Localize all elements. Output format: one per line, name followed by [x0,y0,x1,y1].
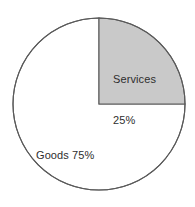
pie-chart-svg [0,0,195,207]
pie-chart: Services 25% Goods 75% [0,0,195,207]
pie-label-services: Services 25% [113,46,156,154]
pie-label-goods-text: Goods 75% [36,149,94,163]
pie-label-goods: Goods 75% [36,122,94,190]
pie-label-services-value: 25% [113,114,156,128]
pie-label-services-name: Services [113,73,156,87]
